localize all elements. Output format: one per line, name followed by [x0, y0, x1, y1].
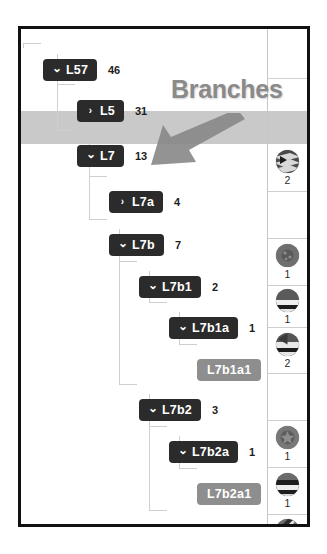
chevron-down-icon[interactable]: ⌄ [52, 62, 61, 74]
connector-line [149, 426, 167, 427]
chevron-right-icon[interactable]: › [118, 197, 127, 207]
quarter-band-sphere-icon [276, 333, 299, 356]
icon-count: 2 [285, 175, 291, 186]
tree-node-count: 13 [135, 145, 147, 167]
connector-line [149, 510, 167, 511]
chevron-down-icon[interactable]: ⌄ [118, 237, 127, 249]
chevron-down-icon[interactable]: ⌄ [148, 402, 157, 414]
tree-node-l7b1[interactable]: ⌄L7b1 [139, 276, 201, 298]
tree-plane: ⌄L5746›L531⌄L713›L7a4⌄L7b7⌄L7b12⌄L7b1a1L… [21, 29, 307, 524]
connector-line [57, 84, 75, 85]
connector-line [119, 384, 137, 385]
branches-annotation-label: Branches [171, 77, 283, 102]
icon-cell[interactable]: 1 [268, 286, 307, 328]
triple-band-sphere-icon [276, 473, 299, 496]
tree-node-l7b2[interactable]: ⌄L7b2 [139, 399, 201, 421]
connector-line [149, 302, 167, 303]
striped-sphere-icon [276, 150, 299, 173]
tree-node-label: L7b2a1 [207, 488, 251, 501]
icon-cell[interactable]: 2 [268, 144, 307, 192]
tree-node-l7b1a1[interactable]: L7b1a1 [197, 359, 261, 381]
tree-node-label: L7 [100, 150, 115, 163]
tree-node-label: L7b2 [162, 404, 192, 417]
star-sphere-icon [276, 426, 299, 449]
tree-node-l7b2a1[interactable]: L7b2a1 [197, 483, 261, 505]
tree-node-l7b[interactable]: ⌄L7b [109, 234, 164, 256]
tree-node-l7b2a[interactable]: ⌄L7b2a [169, 441, 238, 463]
icon-cell[interactable]: 1 [268, 421, 307, 468]
connector-line [23, 43, 41, 44]
tree-node-count: 1 [249, 441, 255, 463]
connector-line [89, 176, 107, 177]
tree-node-l5[interactable]: ›L5 [77, 100, 124, 122]
tree-node-count: 2 [212, 276, 218, 298]
tree-node-label: L5 [100, 105, 115, 118]
arrow-down-left-icon [149, 113, 249, 165]
icon-count: 1 [285, 314, 291, 325]
tree-node-count: 31 [135, 100, 147, 122]
icon-cell[interactable]: 2 [268, 328, 307, 374]
tree-node-count: 4 [174, 191, 180, 213]
textured-sphere-icon [276, 244, 299, 267]
tree-node-count: 1 [249, 317, 255, 339]
connector-line [89, 219, 107, 220]
tree-node-count: 3 [212, 399, 218, 421]
tree-panel: ⌄L5746›L531⌄L713›L7a4⌄L7b7⌄L7b12⌄L7b1a1L… [18, 26, 310, 527]
chevron-right-icon[interactable]: › [86, 106, 95, 116]
tree-node-label: L7b1a [192, 322, 229, 335]
icon-cell[interactable]: 1 [268, 468, 307, 515]
tree-node-count: 7 [175, 234, 181, 256]
chevron-down-icon[interactable]: ⌄ [178, 320, 187, 332]
tree-node-label: L7b1 [162, 281, 192, 294]
icon-cell[interactable] [268, 374, 307, 421]
tree-node-label: L7b2a [192, 446, 229, 459]
tree-node-label: L7b [132, 239, 155, 252]
half-band-sphere-icon [276, 289, 299, 312]
icon-count: 1 [285, 451, 291, 462]
tree-node-label: L7a [132, 196, 154, 209]
tree-node-l7b1a[interactable]: ⌄L7b1a [169, 317, 238, 339]
icon-count: 2 [285, 358, 291, 369]
screenshot-root: ⌄L5746›L531⌄L713›L7a4⌄L7b7⌄L7b12⌄L7b1a1L… [0, 0, 327, 554]
tree-node-l7[interactable]: ⌄L7 [77, 145, 124, 167]
tree-node-l57[interactable]: ⌄L57 [43, 59, 97, 81]
chevron-down-icon[interactable]: ⌄ [148, 279, 157, 291]
icon-cell[interactable] [268, 192, 307, 239]
tree-node-count: 46 [108, 59, 120, 81]
connector-line [57, 130, 75, 131]
tree-node-label: L57 [66, 64, 88, 77]
chevron-down-icon[interactable]: ⌄ [86, 148, 95, 160]
connector-line [119, 261, 137, 262]
chevron-down-icon[interactable]: ⌄ [178, 444, 187, 456]
connector-line [179, 468, 197, 469]
icon-column: 2112114 [268, 29, 307, 524]
tree-node-label: L7b1a1 [207, 364, 251, 377]
connector-line [179, 344, 197, 345]
diagonal-slash-sphere-icon [276, 519, 299, 524]
icon-cell[interactable]: 1 [268, 239, 307, 286]
tree-node-l7a[interactable]: ›L7a [109, 191, 163, 213]
icon-count: 1 [285, 498, 291, 509]
icon-count: 1 [285, 269, 291, 280]
icon-cell[interactable]: 4 [268, 515, 307, 524]
